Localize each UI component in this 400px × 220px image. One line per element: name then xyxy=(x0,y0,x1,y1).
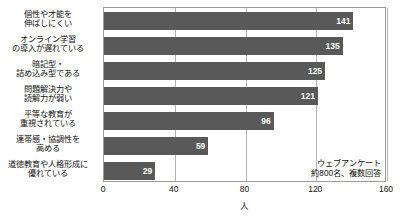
annotation-line: ウェブアンケート xyxy=(311,159,381,169)
bar: 125 xyxy=(104,62,325,80)
bar-value-label: 141 xyxy=(336,16,350,25)
bar: 141 xyxy=(104,12,353,30)
category-axis-labels: 個性や才能を 伸ばしにくいオンライン学習 の導入が遅れている暗記型・ 詰め込み型… xyxy=(0,7,101,182)
bar-row: 96 xyxy=(104,112,274,130)
bar-value-label: 121 xyxy=(301,91,315,100)
category-label: 問題解決力や 読解力が弱い xyxy=(0,85,98,104)
bar: 29 xyxy=(104,162,155,180)
bar: 59 xyxy=(104,137,208,155)
x-axis-label: 人 xyxy=(103,199,386,211)
category-label: 連帯感・協調性を 高める xyxy=(0,135,98,154)
bar-row: 121 xyxy=(104,87,318,105)
bar-row: 125 xyxy=(104,62,325,80)
bar-row: 141 xyxy=(104,12,353,30)
bar-row: 59 xyxy=(104,137,208,155)
bar: 96 xyxy=(104,112,274,130)
category-label: 平等な教育が 重視されている xyxy=(0,110,98,129)
category-label: 暗記型・ 詰め込み型である xyxy=(0,60,98,79)
bar-value-label: 29 xyxy=(143,166,152,175)
x-tick-label: 0 xyxy=(101,184,106,194)
bar-value-label: 96 xyxy=(261,116,270,125)
bar-value-label: 135 xyxy=(326,41,340,50)
bar-value-label: 59 xyxy=(196,141,205,150)
x-tick-label: 160 xyxy=(379,184,393,194)
category-label: オンライン学習 の導入が遅れている xyxy=(0,35,98,54)
x-tick-label: 80 xyxy=(240,184,249,194)
annotation-line: 約800名、複数回答 xyxy=(311,169,381,179)
category-label: 道徳教育や人格形成に 優れている xyxy=(0,160,98,179)
x-tick-label: 120 xyxy=(308,184,322,194)
survey-annotation: ウェブアンケート約800名、複数回答 xyxy=(311,159,381,179)
bar-series: 141135125121965929 xyxy=(104,8,385,181)
bar: 121 xyxy=(104,87,318,105)
gridline xyxy=(387,8,388,181)
x-axis-tick-labels: 04080120160 xyxy=(103,184,386,198)
plot-area: 141135125121965929 ウェブアンケート約800名、複数回答 xyxy=(103,7,386,182)
bar-row: 29 xyxy=(104,162,155,180)
bar: 135 xyxy=(104,37,343,55)
x-tick-label: 40 xyxy=(169,184,178,194)
category-label: 個性や才能を 伸ばしにくい xyxy=(0,10,98,29)
bar-chart: 個性や才能を 伸ばしにくいオンライン学習 の導入が遅れている暗記型・ 詰め込み型… xyxy=(0,0,400,220)
bar-value-label: 125 xyxy=(308,66,322,75)
bar-row: 135 xyxy=(104,37,343,55)
